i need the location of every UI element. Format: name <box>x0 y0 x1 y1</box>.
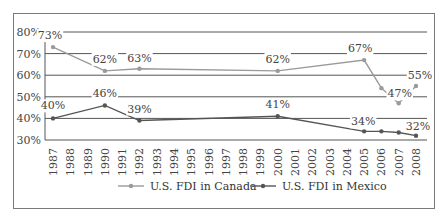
data-label: 34% <box>351 115 375 128</box>
data-label: 63% <box>127 52 151 65</box>
data-point-marker <box>276 69 280 73</box>
x-tick-label: 1999 <box>254 148 267 176</box>
y-tick-label: 30% <box>17 134 41 147</box>
x-tick-label: 1987 <box>47 148 60 176</box>
data-label: 46% <box>93 87 117 100</box>
x-tick-label: 1997 <box>220 148 233 176</box>
data-point-marker <box>362 58 366 62</box>
legend-label: U.S. FDI in Canada <box>150 180 257 193</box>
data-point-marker <box>379 129 383 133</box>
y-tick-label: 40% <box>17 112 41 125</box>
x-tick-label: 1994 <box>168 148 181 176</box>
data-label: 40% <box>41 99 65 112</box>
data-point-marker <box>362 129 366 133</box>
data-point-marker <box>379 86 383 90</box>
line-chart: 80%70%60%50%40%30%1987198819891990199119… <box>0 0 448 223</box>
x-tick-label: 1995 <box>185 148 198 176</box>
legend-marker <box>129 184 133 188</box>
x-tick-label: 2005 <box>358 148 371 176</box>
x-tick-label: 1989 <box>82 148 95 176</box>
x-tick-label: 1998 <box>237 148 250 176</box>
data-point-marker <box>137 67 141 71</box>
x-tick-label: 2004 <box>341 148 354 176</box>
x-tick-label: 1996 <box>203 148 216 176</box>
data-label: 32% <box>406 120 430 133</box>
data-label: 47% <box>387 87 411 100</box>
y-tick-label: 70% <box>17 48 41 61</box>
x-tick-label: 2006 <box>375 148 388 176</box>
data-point-marker <box>103 69 107 73</box>
data-label: 73% <box>38 29 62 42</box>
x-tick-label: 1991 <box>116 148 129 176</box>
x-tick-label: 2007 <box>393 148 406 176</box>
data-point-marker <box>414 84 418 88</box>
x-tick-label: 2001 <box>289 148 302 176</box>
data-point-marker <box>51 116 55 120</box>
data-point-marker <box>51 45 55 49</box>
x-tick-label: 2002 <box>306 148 319 176</box>
data-label: 62% <box>93 53 117 66</box>
data-point-marker <box>103 103 107 107</box>
legend-marker <box>261 184 265 188</box>
data-point-marker <box>397 101 401 105</box>
x-tick-label: 1990 <box>99 148 112 176</box>
x-tick-label: 1992 <box>133 148 146 176</box>
data-label: 39% <box>127 103 151 116</box>
data-label: 62% <box>265 53 289 66</box>
x-tick-label: 2003 <box>324 148 337 176</box>
data-point-marker <box>414 133 418 137</box>
x-tick-label: 2000 <box>272 148 285 176</box>
data-point-marker <box>276 114 280 118</box>
data-label: 55% <box>408 69 432 82</box>
data-label: 67% <box>348 42 372 55</box>
data-point-marker <box>137 118 141 122</box>
x-tick-label: 1993 <box>151 148 164 176</box>
x-tick-label: 1988 <box>64 148 77 176</box>
legend-label: U.S. FDI in Mexico <box>282 180 387 193</box>
x-tick-label: 2008 <box>410 148 423 176</box>
y-tick-label: 60% <box>17 69 41 82</box>
data-label: 41% <box>265 98 289 111</box>
y-tick-label: 50% <box>17 91 41 104</box>
data-point-marker <box>397 130 401 134</box>
